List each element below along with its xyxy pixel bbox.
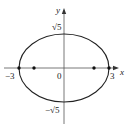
x-neg-label: −3 [5, 71, 15, 81]
x-axis-label: x [119, 67, 124, 77]
y-neg-label: −√5 [45, 105, 60, 115]
focus-right-point [92, 66, 95, 69]
y-pos-label: √5 [52, 22, 62, 32]
ellipse-diagram: y x 0 −3 3 √5 −√5 [0, 0, 129, 127]
vertex-right-point [107, 66, 110, 69]
origin-label: 0 [57, 71, 62, 81]
y-axis-arrow-icon [62, 8, 66, 14]
x-pos-label: 3 [110, 71, 115, 81]
focus-left-point [32, 66, 35, 69]
y-axis-label: y [55, 5, 60, 15]
x-axis-arrow-icon [113, 66, 119, 70]
vertex-left-point [17, 66, 20, 69]
